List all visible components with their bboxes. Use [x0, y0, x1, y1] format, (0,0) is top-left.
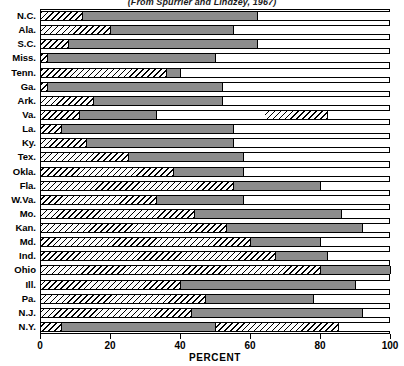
bar-segment-gray	[167, 69, 181, 77]
bar-segment-hatched	[41, 182, 234, 190]
bar-segment-gray	[48, 83, 223, 91]
bar-segment-gray	[174, 168, 244, 176]
bar-segment-white	[244, 196, 391, 204]
bar-segment-hatched	[41, 323, 62, 331]
bar-segment-hatched	[41, 125, 62, 133]
bar-segment-gray	[227, 224, 364, 232]
y-axis-tick-label: Ky.	[0, 137, 36, 148]
y-axis-tick-label: Miss.	[0, 52, 36, 63]
bar-ala	[40, 25, 390, 35]
bar-segment-hatched	[41, 196, 157, 204]
bar-ind	[40, 251, 390, 261]
y-axis-tick-label: La.	[0, 123, 36, 134]
chart-figure: (From Spurrier and Lindzey, 1967) N.C.Al…	[0, 0, 404, 366]
x-axis: 020406080100	[40, 334, 390, 335]
bar-segment-hatched	[41, 83, 48, 91]
bar-segment-gray	[234, 182, 322, 190]
bar-segment-white	[328, 252, 391, 260]
bar-okla	[40, 167, 390, 177]
bar-segment-hatched-secondary	[216, 323, 339, 331]
bar-segment-white	[244, 153, 391, 161]
y-axis-tick-label: Tenn.	[0, 67, 36, 78]
y-axis-tick-label: N.C.	[0, 10, 36, 21]
bar-segment-hatched	[41, 153, 129, 161]
x-axis-tick	[110, 334, 111, 339]
y-axis-tick-label: Ind.	[0, 250, 36, 261]
bar-segment-hatched	[41, 309, 192, 317]
bar-segment-gray	[192, 309, 364, 317]
bar-segment-white	[258, 40, 391, 48]
bar-segment-gray	[251, 238, 321, 246]
bar-segment-white	[363, 224, 391, 232]
bar-ill	[40, 280, 390, 290]
bar-segment-white	[321, 182, 391, 190]
x-axis-tick	[40, 334, 41, 339]
bar-segment-gray	[157, 196, 245, 204]
bar-tenn	[40, 68, 390, 78]
y-axis-tick-label: Tex.	[0, 151, 36, 162]
x-axis-tick-label: 60	[244, 340, 255, 351]
y-axis-tick-label: Okla.	[0, 166, 36, 177]
bar-segment-gray	[83, 12, 258, 20]
x-axis-tick	[390, 334, 391, 339]
bar-segment-white	[363, 309, 391, 317]
x-axis-tick-label: 80	[314, 340, 325, 351]
x-axis-tick	[180, 334, 181, 339]
y-axis-tick-label: Ala.	[0, 24, 36, 35]
bar-segment-hatched	[41, 54, 48, 62]
bar-sc	[40, 39, 390, 49]
bar-tex	[40, 152, 390, 162]
bar-mo	[40, 209, 390, 219]
bar-segment-hatched	[41, 97, 94, 105]
bar-segment-gray	[206, 295, 315, 303]
bar-segment-white	[244, 168, 391, 176]
bar-segment-hatched	[41, 69, 167, 77]
bar-ga	[40, 82, 390, 92]
bar-segment-gray	[94, 97, 224, 105]
bar-la	[40, 124, 390, 134]
bar-nc	[40, 11, 390, 21]
bar-segment-gray	[181, 281, 356, 289]
bar-ny	[40, 322, 390, 332]
bar-segment-gray	[111, 26, 234, 34]
bar-fla	[40, 181, 390, 191]
bar-segment-white	[181, 69, 391, 77]
bar-segment-gray	[62, 323, 216, 331]
y-axis-tick-label: Ark.	[0, 95, 36, 106]
bar-md	[40, 237, 390, 247]
bar-segment-white-tail	[328, 111, 391, 119]
y-axis-tick-label: Va.	[0, 109, 36, 120]
bar-pa	[40, 294, 390, 304]
bar-segment-hatched	[41, 224, 227, 232]
bar-va	[40, 110, 390, 120]
bar-segment-white	[223, 83, 391, 91]
bar-segment-hatched	[41, 238, 251, 246]
bar-segment-hatched	[41, 111, 80, 119]
x-axis-tick-label: 100	[382, 340, 399, 351]
bar-segment-white	[321, 238, 391, 246]
x-axis-tick-label: 0	[37, 340, 43, 351]
x-axis-tick	[250, 334, 251, 339]
bar-segment-gray	[69, 40, 258, 48]
bar-kan	[40, 223, 390, 233]
bar-nj	[40, 308, 390, 318]
x-axis-tick-label: 40	[174, 340, 185, 351]
bar-segment-hatched-secondary	[265, 111, 328, 119]
bar-segment-hatched	[41, 26, 111, 34]
bar-segment-gray	[129, 153, 245, 161]
bar-miss	[40, 53, 390, 63]
x-axis-label: PERCENT	[40, 352, 390, 363]
bar-segment-white	[223, 97, 391, 105]
bar-segment-gray	[195, 210, 342, 218]
y-axis-tick-label: Md.	[0, 236, 36, 247]
bar-ohio	[40, 265, 390, 275]
y-axis-tick-label: Ohio	[0, 264, 36, 275]
chart-title: (From Spurrier and Lindzey, 1967)	[0, 0, 404, 7]
bar-segment-white	[234, 125, 392, 133]
bar-segment-hatched	[41, 139, 87, 147]
x-axis-tick	[320, 334, 321, 339]
bar-segment-white	[342, 210, 391, 218]
y-axis-tick-label: Mo.	[0, 208, 36, 219]
y-axis-tick-label: Pa.	[0, 293, 36, 304]
bar-segment-white	[234, 139, 392, 147]
